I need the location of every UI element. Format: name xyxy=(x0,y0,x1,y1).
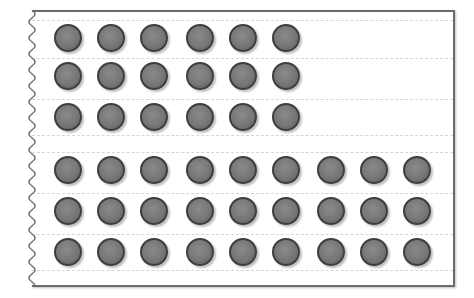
counting-dot xyxy=(360,238,388,266)
counting-dot xyxy=(229,197,257,225)
rule-line xyxy=(32,234,453,235)
counting-dot xyxy=(403,238,431,266)
rule-line xyxy=(32,135,453,136)
counting-dot xyxy=(97,238,125,266)
counting-dot xyxy=(229,24,257,52)
counting-dot xyxy=(97,62,125,90)
counting-dot xyxy=(140,156,168,184)
torn-edge xyxy=(26,10,38,285)
rule-line xyxy=(32,193,453,194)
counting-dot xyxy=(229,238,257,266)
counting-dot xyxy=(317,156,345,184)
counting-dot xyxy=(272,156,300,184)
counting-dot xyxy=(54,103,82,131)
rule-line xyxy=(32,270,453,271)
counting-dot xyxy=(229,103,257,131)
counting-dot xyxy=(97,197,125,225)
counting-dot xyxy=(97,103,125,131)
counting-dot xyxy=(186,103,214,131)
counting-dot xyxy=(140,103,168,131)
counting-dot xyxy=(54,62,82,90)
counting-dot xyxy=(186,24,214,52)
counting-dot xyxy=(272,103,300,131)
counting-dot xyxy=(186,238,214,266)
counting-dot xyxy=(54,238,82,266)
counting-dot xyxy=(54,156,82,184)
counting-dot xyxy=(97,156,125,184)
rule-line xyxy=(32,20,453,21)
rule-line xyxy=(32,152,453,153)
counting-dot xyxy=(54,197,82,225)
counting-dot xyxy=(403,197,431,225)
counting-dot xyxy=(360,197,388,225)
counting-dot xyxy=(272,62,300,90)
counting-dot xyxy=(54,24,82,52)
counting-dot xyxy=(272,24,300,52)
counting-dot xyxy=(140,62,168,90)
counting-dot xyxy=(229,156,257,184)
counting-dot xyxy=(186,156,214,184)
counting-dot xyxy=(272,238,300,266)
counting-dot xyxy=(186,197,214,225)
counting-dot xyxy=(272,197,300,225)
counting-dot xyxy=(140,238,168,266)
counting-dot xyxy=(360,156,388,184)
counting-dot xyxy=(140,197,168,225)
rule-line xyxy=(32,58,453,59)
counting-dot xyxy=(317,238,345,266)
rule-line xyxy=(32,99,453,100)
counting-dot xyxy=(317,197,345,225)
counting-dot xyxy=(403,156,431,184)
counting-dot xyxy=(186,62,214,90)
counting-dot xyxy=(229,62,257,90)
counting-dot xyxy=(140,24,168,52)
counting-dot xyxy=(97,24,125,52)
